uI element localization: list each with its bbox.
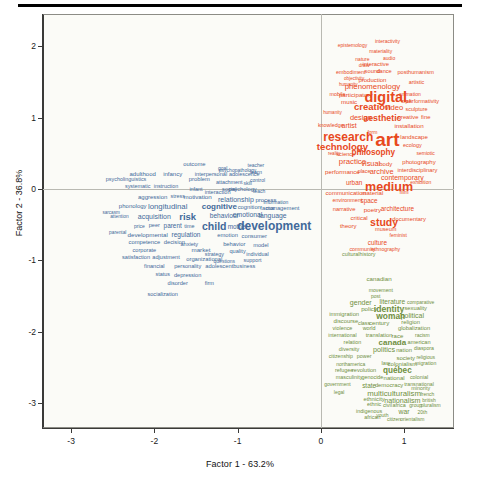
horizontal-zero-axis: [42, 189, 454, 190]
x-tick: [321, 429, 322, 433]
x-tick: [71, 429, 72, 433]
y-tick: [38, 46, 42, 47]
y-tick: [38, 189, 42, 190]
vertical-zero-axis: [321, 14, 322, 428]
y-axis-line: [42, 14, 43, 428]
plot-area-frame: [42, 14, 454, 428]
y-tick: [38, 118, 42, 119]
x-tick-label: -2: [151, 436, 159, 446]
header-rule: [18, 4, 462, 7]
x-tick: [238, 429, 239, 433]
x-axis-label: Factor 1 - 63.2%: [0, 459, 480, 469]
y-tick-label: -3: [26, 398, 36, 408]
x-tick-label: -3: [67, 436, 75, 446]
y-tick-label: 2: [26, 41, 36, 51]
x-tick-label: 1: [402, 436, 407, 446]
x-axis-line: [42, 428, 454, 429]
x-tick-label: 0: [318, 436, 323, 446]
x-tick-label: -1: [234, 436, 242, 446]
correspondence-analysis-figure: -3-2-101 210-1-2-3 epistemologyinteracti…: [0, 0, 480, 486]
y-tick-label: 1: [26, 113, 36, 123]
y-tick-label: -2: [26, 327, 36, 337]
x-tick: [154, 429, 155, 433]
x-tick: [404, 429, 405, 433]
y-tick: [38, 260, 42, 261]
y-tick: [38, 332, 42, 333]
y-tick-label: -1: [26, 255, 36, 265]
y-tick-label: 0: [26, 184, 36, 194]
y-axis-label: Factor 2 - 36.8%: [14, 158, 24, 248]
y-tick: [38, 403, 42, 404]
